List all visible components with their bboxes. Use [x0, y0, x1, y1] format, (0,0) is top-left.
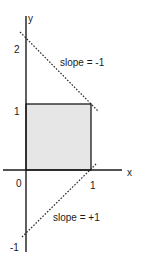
line-slope-negative-one	[20, 32, 98, 111]
origin-label: 0	[16, 178, 22, 189]
y-tick-neg1: -1	[10, 242, 19, 253]
x-tick-1: 1	[90, 180, 96, 191]
slope-neg-annotation: slope = -1	[60, 57, 105, 68]
diagram-canvas: y x 2 1 -1 0 1 slope = -1 slope = +1	[0, 0, 142, 261]
shaded-unit-square	[26, 104, 91, 170]
slope-pos-annotation: slope = +1	[53, 212, 100, 223]
x-axis-label: x	[127, 167, 132, 178]
y-tick-1: 1	[14, 106, 20, 117]
line-slope-positive-one	[22, 163, 97, 237]
y-tick-2: 2	[14, 44, 20, 55]
y-axis-label: y	[28, 13, 33, 24]
